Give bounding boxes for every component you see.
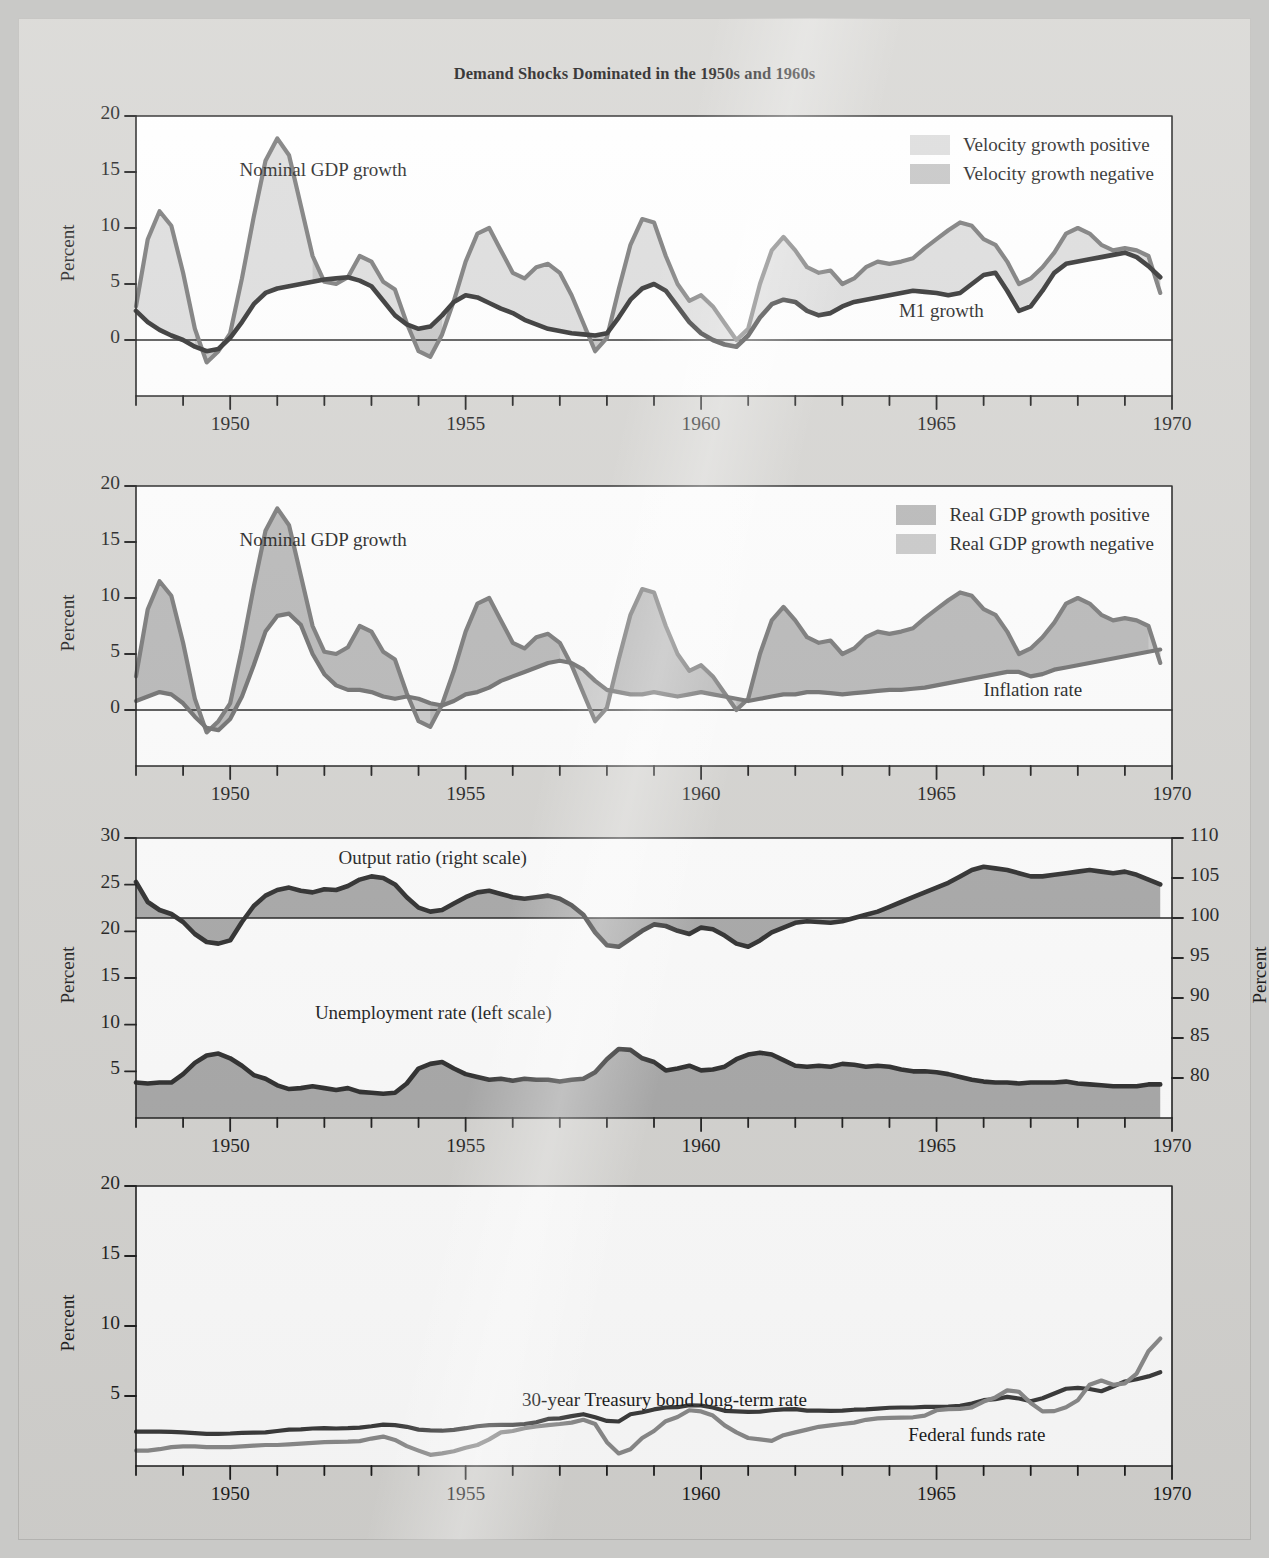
plot-svg-panel4 <box>136 1186 1232 1506</box>
x-tick-label: 1950 <box>185 413 275 435</box>
y-tick-label-right: 100 <box>1190 904 1250 926</box>
legend-swatch <box>896 534 936 554</box>
x-tick-label: 1960 <box>656 783 746 805</box>
y-tick-label-right: 110 <box>1190 824 1250 846</box>
panel-output-ratio-unemployment: 5101520253080859095100105110195019551960… <box>136 838 1172 1118</box>
series-annotation: Nominal GDP growth <box>240 529 407 551</box>
y-tick-label: 20 <box>58 1172 120 1194</box>
legend-item: Real GDP growth negative <box>896 529 1154 558</box>
panel-interest-rates: 510152019501955196019651970Percent30-yea… <box>136 1186 1172 1466</box>
y-tick-label: 20 <box>58 102 120 124</box>
x-tick-label: 1955 <box>421 413 511 435</box>
y-tick-label: 5 <box>58 1057 120 1079</box>
x-tick-label: 1970 <box>1127 1483 1217 1505</box>
legend-swatch <box>910 164 950 184</box>
series-annotation: Inflation rate <box>984 679 1083 701</box>
legend-label: Real GDP growth negative <box>949 533 1154 555</box>
plot-svg-panel3 <box>136 838 1232 1158</box>
y-tick-label-right: 80 <box>1190 1064 1250 1086</box>
legend-swatch <box>896 505 936 525</box>
panel-velocity-nominal-gdp: 0510152019501955196019651970PercentNomin… <box>136 116 1172 396</box>
series-annotation: Output ratio (right scale) <box>339 847 527 869</box>
y-tick-label-right: 105 <box>1190 864 1250 886</box>
y-axis-title-right: Percent <box>1249 895 1269 1055</box>
x-tick-label: 1965 <box>892 1483 982 1505</box>
legend-label: Velocity growth positive <box>963 134 1150 156</box>
x-tick-label: 1960 <box>656 1135 746 1157</box>
legend-item: Velocity growth positive <box>910 130 1154 159</box>
x-tick-label: 1965 <box>892 1135 982 1157</box>
legend-label: Velocity growth negative <box>963 163 1154 185</box>
x-tick-label: 1955 <box>421 1483 511 1505</box>
x-tick-label: 1955 <box>421 783 511 805</box>
y-tick-label-right: 85 <box>1190 1024 1250 1046</box>
x-tick-label: 1970 <box>1127 1135 1217 1157</box>
series-annotation: M1 growth <box>899 300 984 322</box>
panel-real-gdp-inflation: 0510152019501955196019651970PercentNomin… <box>136 486 1172 766</box>
series-annotation: Federal funds rate <box>908 1424 1045 1446</box>
legend-label: Real GDP growth positive <box>949 504 1149 526</box>
x-tick-label: 1950 <box>185 783 275 805</box>
legend-item: Velocity growth negative <box>910 159 1154 188</box>
x-tick-label: 1960 <box>656 413 746 435</box>
x-tick-label: 1965 <box>892 413 982 435</box>
legend-panel2: Real GDP growth positiveReal GDP growth … <box>896 500 1154 558</box>
y-axis-title: Percent <box>57 1243 79 1403</box>
y-tick-label: 20 <box>58 472 120 494</box>
figure-container: Demand Shocks Dominated in the 1950s and… <box>18 18 1251 1540</box>
legend-swatch <box>910 135 950 155</box>
x-tick-label: 1950 <box>185 1135 275 1157</box>
series-annotation: Unemployment rate (left scale) <box>315 1002 552 1024</box>
x-tick-label: 1970 <box>1127 413 1217 435</box>
x-tick-label: 1955 <box>421 1135 511 1157</box>
legend-item: Real GDP growth positive <box>896 500 1154 529</box>
x-tick-label: 1970 <box>1127 783 1217 805</box>
x-tick-label: 1965 <box>892 783 982 805</box>
y-axis-title: Percent <box>57 173 79 333</box>
figure-title: Demand Shocks Dominated in the 1950s and… <box>18 64 1251 84</box>
y-tick-label-right: 95 <box>1190 944 1250 966</box>
x-tick-label: 1960 <box>656 1483 746 1505</box>
y-tick-label: 30 <box>58 824 120 846</box>
legend-panel1: Velocity growth positiveVelocity growth … <box>910 130 1154 188</box>
series-annotation: Nominal GDP growth <box>240 159 407 181</box>
series-annotation: 30-year Treasury bond long-term rate <box>522 1389 807 1411</box>
y-axis-title: Percent <box>57 543 79 703</box>
x-tick-label: 1950 <box>185 1483 275 1505</box>
y-tick-label: 25 <box>58 871 120 893</box>
y-tick-label-right: 90 <box>1190 984 1250 1006</box>
y-axis-title: Percent <box>57 895 79 1055</box>
